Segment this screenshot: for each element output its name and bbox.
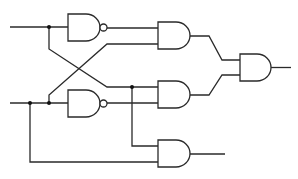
and-gate-top — [158, 22, 190, 49]
junction-dot — [130, 85, 134, 89]
nand-gate-top — [68, 14, 100, 41]
nand-top-bubble — [100, 24, 107, 31]
and-top-output-wire — [190, 36, 240, 60]
logic-circuit-diagram — [0, 0, 298, 179]
and-gate-final — [240, 54, 271, 81]
junction-dot — [47, 25, 51, 29]
cross-wire-a-to-and-middle — [49, 27, 158, 87]
and-gate-middle — [158, 81, 190, 108]
nand-bottom-bubble — [100, 100, 107, 107]
cross-wire-b-to-and-top — [49, 44, 158, 103]
junction-dot — [28, 101, 32, 105]
and-middle-output-wire — [190, 75, 240, 95]
branch-to-and-bottom-top — [132, 87, 158, 146]
junction-dot — [47, 101, 51, 105]
nand-gate-bottom — [68, 90, 100, 117]
and-gate-bottom — [158, 140, 190, 167]
